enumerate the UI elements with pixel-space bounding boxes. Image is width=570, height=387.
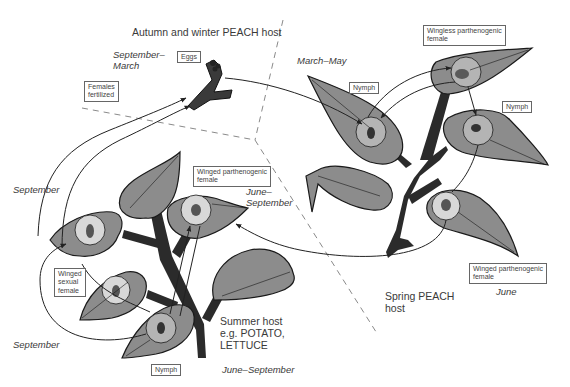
peach-twig-eggs-icon [188,60,232,110]
label-nymph-summer: Nymph [151,364,181,376]
label-wingless-parthenogenic-female: Wingless parthenogenic female [423,25,506,46]
boundary-summer-spring [255,140,378,335]
season-june-september-mid: June– September [246,187,292,209]
region-spring-peach-label: Spring PEACH host [385,290,454,314]
label-winged-spring-line2: female [473,273,543,281]
label-females-fertilized: Females fertilized [84,81,119,102]
label-wingless-line1: Wingless parthenogenic [427,27,502,35]
label-winged-summer-line1: Winged parthenogenic [197,168,267,176]
label-winged-sexual-line1: Winged [58,270,82,278]
boundary-autumn-summer [82,108,255,140]
label-winged-sexual-female: Winged sexual female [54,268,86,297]
label-winged-summer-line2: female [197,176,267,184]
region-autumn-winter-label: Autumn and winter PEACH host [132,26,281,38]
season-september-upper: September [13,185,59,196]
label-eggs-text: Eggs [181,53,197,61]
region-summer-host-label: Summer host e.g. POTATO, LETTUCE [220,315,285,351]
region-spring-line2: host [385,302,454,314]
label-eggs: Eggs [177,51,201,63]
label-winged-sexual-line2: sexual [58,278,82,286]
season-september-march: September– March [113,50,165,72]
season-sep-march-line2: March [113,61,165,72]
label-nymph-spring-right-text: Nymph [506,103,528,111]
label-females-fertilized-line1: Females [88,83,115,91]
label-winged-parthenogenic-female-summer: Winged parthenogenic female [193,166,271,187]
season-june-sept-mid-line2: September [246,198,292,209]
label-nymph-spring-left-text: Nymph [353,84,375,92]
label-winged-parthenogenic-female-spring: Winged parthenogenic female [469,263,547,284]
season-june-september-bottom: June–September [222,365,294,376]
label-winged-sexual-line3: female [58,287,82,295]
label-nymph-spring-left: Nymph [349,82,379,94]
spring-peach-plant [306,48,548,258]
region-summer-line1: Summer host [220,315,285,327]
label-females-fertilized-line2: fertilized [88,91,115,99]
aphid-life-cycle-diagram: Autumn and winter PEACH host September– … [0,0,570,387]
season-june: June [496,287,517,298]
label-nymph-summer-text: Nymph [155,366,177,374]
season-september-lower: September [13,340,59,351]
region-summer-line3: LETTUCE [220,339,285,351]
region-spring-line1: Spring PEACH [385,290,454,302]
season-march-may: March–May [297,56,347,67]
label-wingless-line2: female [427,35,502,43]
label-nymph-spring-right: Nymph [502,101,532,113]
label-winged-spring-line1: Winged parthenogenic [473,265,543,273]
region-summer-line2: e.g. POTATO, [220,327,285,339]
